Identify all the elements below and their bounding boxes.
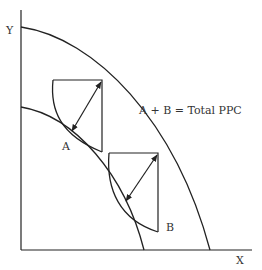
- box-a-arc: [53, 80, 102, 152]
- small-ppc-a: [53, 80, 102, 152]
- total-ppc-annotation: A + B = Total PPC: [138, 104, 242, 117]
- arrow-a: [72, 82, 101, 131]
- ppc-diagram: Y X A B A + B = Total PPC: [0, 0, 262, 270]
- small-ppc-b: [109, 153, 158, 232]
- arrow-b: [126, 155, 157, 201]
- outer-ppc-curve: [21, 27, 210, 250]
- y-axis-label: Y: [5, 24, 14, 37]
- point-b-label: B: [166, 221, 174, 234]
- box-a-frame: [53, 80, 102, 152]
- point-a-label: A: [61, 140, 71, 153]
- inner-ppc-curve: [21, 107, 144, 250]
- x-axis-label: X: [236, 254, 244, 267]
